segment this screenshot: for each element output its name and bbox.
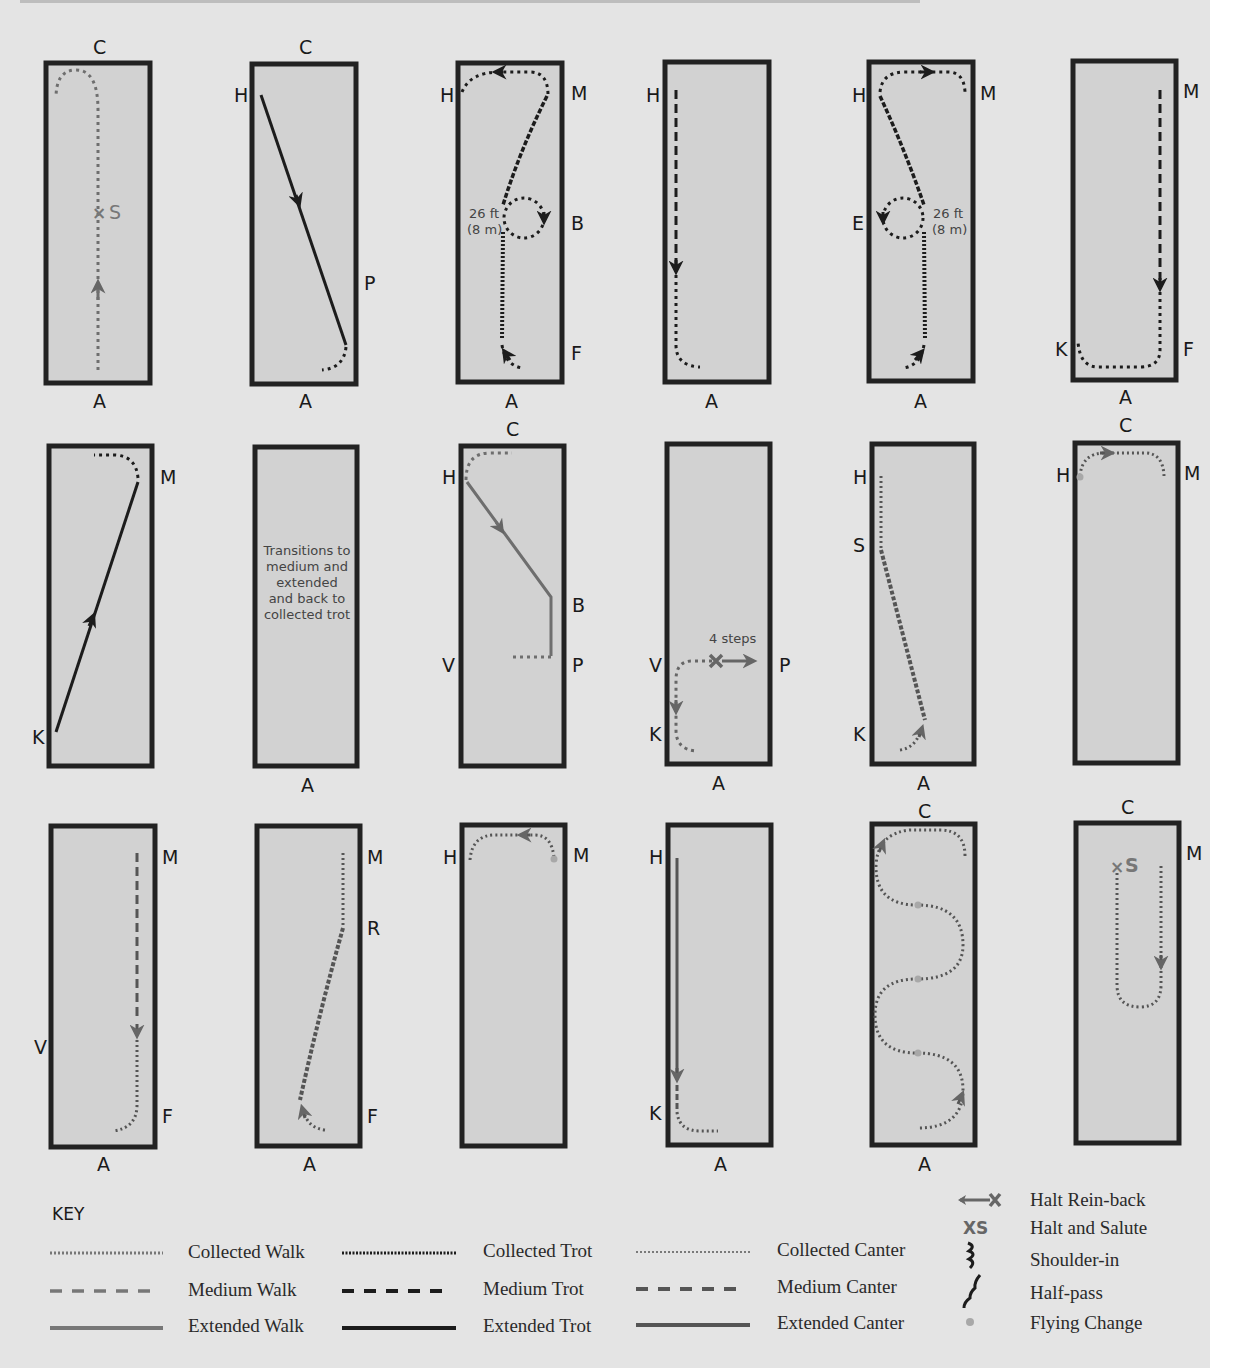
marker-m: M — [1183, 80, 1199, 102]
marker-p: P — [572, 654, 583, 676]
marker-f: F — [367, 1105, 378, 1127]
transitions-note-line: extended — [276, 575, 337, 590]
halt-salute-icon: × — [1110, 857, 1124, 877]
flying-change-icon — [915, 902, 922, 909]
marker-k: K — [853, 723, 866, 745]
marker-h: H — [649, 846, 663, 868]
marker-v: V — [34, 1036, 47, 1058]
marker-c: C — [506, 418, 519, 440]
arena-6: M K F A — [1055, 61, 1199, 408]
transitions-note-line: medium and — [266, 559, 348, 574]
marker-m: M — [1184, 462, 1200, 484]
legend: KEY Collected Walk Medium Walk Extended … — [50, 1189, 1147, 1336]
marker-a: A — [705, 390, 718, 412]
halt-salute-icon: × — [92, 203, 106, 223]
marker-r: R — [367, 917, 380, 939]
legend-label: Extended Walk — [188, 1315, 304, 1336]
legend-label: Halt and Salute — [1030, 1217, 1147, 1238]
marker-a: A — [299, 390, 312, 412]
marker-a: A — [1119, 386, 1132, 408]
shoulder-in-icon — [968, 1243, 973, 1268]
half-pass-icon — [964, 1275, 980, 1308]
marker-h: H — [442, 466, 456, 488]
marker-a: A — [93, 390, 106, 412]
legend-label: Medium Trot — [483, 1278, 585, 1299]
marker-c: C — [918, 800, 931, 822]
arena-16: H K A — [649, 825, 771, 1175]
legend-label: Shoulder-in — [1030, 1249, 1120, 1270]
marker-f: F — [162, 1105, 173, 1127]
marker-c: C — [1121, 796, 1134, 818]
flying-change-icon — [915, 1050, 922, 1057]
marker-m: M — [573, 844, 589, 866]
marker-k: K — [32, 726, 45, 748]
circle-size-m: (8 m) — [467, 222, 502, 237]
legend-label: Flying Change — [1030, 1312, 1142, 1333]
marker-k: K — [1055, 338, 1068, 360]
dressage-diagram: × S C A C H P A 26 ft (8 m) H M B F A — [0, 0, 1233, 1368]
marker-a: A — [914, 390, 927, 412]
flying-change-icon — [551, 856, 558, 863]
arena-12: C H M — [1056, 414, 1200, 763]
marker-h: H — [646, 84, 660, 106]
flying-change-icon — [915, 976, 922, 983]
legend-label: Halt Rein-back — [1030, 1189, 1146, 1210]
circle-size-ft: 26 ft — [469, 206, 499, 221]
legend-label: Medium Walk — [188, 1279, 297, 1300]
marker-m: M — [1186, 842, 1202, 864]
marker-s: S — [853, 534, 865, 556]
marker-c: C — [1119, 414, 1132, 436]
arena-13: M V F A — [34, 826, 178, 1175]
legend-label: Extended Canter — [777, 1312, 905, 1333]
marker-b: B — [572, 594, 585, 616]
arena-15: H M — [443, 825, 589, 1146]
legend-label: Half-pass — [1030, 1282, 1103, 1303]
arena-11: H S K A — [853, 444, 974, 794]
marker-b: B — [571, 212, 584, 234]
marker-m: M — [160, 466, 176, 488]
arena-10: 4 steps V K P A — [649, 444, 790, 794]
marker-a: A — [505, 390, 518, 412]
arena-2: C H P A — [234, 36, 375, 412]
arena-5: 26 ft (8 m) H E M A — [852, 62, 996, 412]
marker-m: M — [367, 846, 383, 868]
marker-f: F — [1183, 338, 1194, 360]
halt-rein-back-icon — [958, 1194, 1000, 1206]
marker-k: K — [649, 1102, 662, 1124]
marker-c: C — [299, 36, 312, 58]
arena-4: H A — [646, 62, 769, 412]
legend-label: Medium Canter — [777, 1276, 897, 1297]
marker-f: F — [571, 342, 582, 364]
arena-7: M K — [32, 446, 176, 766]
arena-9: C H V B P — [442, 418, 585, 766]
marker-h: H — [1056, 464, 1070, 486]
salute-label: S — [1125, 854, 1139, 876]
marker-e: E — [852, 212, 864, 234]
marker-p: P — [364, 272, 375, 294]
marker-h: H — [853, 466, 867, 488]
marker-c: C — [93, 36, 106, 58]
halt-salute-icon: XS — [963, 1218, 988, 1238]
marker-m: M — [980, 82, 996, 104]
transitions-note-line: collected trot — [264, 607, 350, 622]
arena-8: Transitions to medium and extended and b… — [255, 447, 357, 796]
arena-18: × S C M — [1076, 796, 1202, 1143]
marker-a: A — [714, 1153, 727, 1175]
marker-a: A — [712, 772, 725, 794]
marker-m: M — [571, 82, 587, 104]
rein-back-steps-note: 4 steps — [709, 631, 757, 646]
transitions-note-line: Transitions to — [263, 543, 351, 558]
circle-size-m: (8 m) — [932, 222, 967, 237]
legend-label: Collected Trot — [483, 1240, 593, 1261]
salute-label: S — [109, 201, 121, 223]
marker-h: H — [440, 84, 454, 106]
arena-1: × S C A — [46, 36, 150, 412]
circle-size-ft: 26 ft — [933, 206, 963, 221]
flying-change-icon — [966, 1318, 974, 1326]
legend-heading: KEY — [52, 1204, 85, 1224]
marker-m: M — [162, 846, 178, 868]
legend-label: Collected Walk — [188, 1241, 305, 1262]
marker-p: P — [779, 654, 790, 676]
marker-h: H — [234, 84, 248, 106]
flying-change-icon — [1077, 474, 1084, 481]
